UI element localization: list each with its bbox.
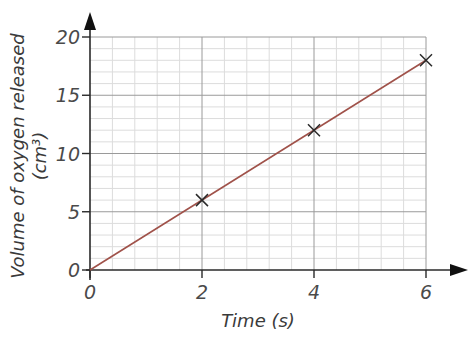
y-tick-label: 20 xyxy=(56,26,80,48)
y-axis-arrow-icon xyxy=(84,12,96,30)
x-tick-label: 2 xyxy=(196,281,208,303)
x-axis-label: Time (s) xyxy=(221,310,295,331)
x-axis-arrow-icon xyxy=(450,264,468,276)
x-tick-label: 4 xyxy=(308,281,320,303)
y-axis-label-group: Volume of oxygen released (cm³) xyxy=(7,33,50,279)
axes xyxy=(84,12,468,280)
x-tick-label: 0 xyxy=(84,281,96,303)
chart: 024605101520 Time (s) Volume of oxygen r… xyxy=(0,0,470,339)
y-tick-label: 0 xyxy=(68,259,80,281)
y-axis-label: Volume of oxygen released xyxy=(7,33,28,279)
y-tick-label: 10 xyxy=(56,143,80,165)
y-tick-label: 5 xyxy=(68,201,80,223)
y-tick-label: 15 xyxy=(56,84,80,106)
x-tick-label: 6 xyxy=(420,281,432,303)
y-axis-unit: (cm³) xyxy=(29,132,50,181)
